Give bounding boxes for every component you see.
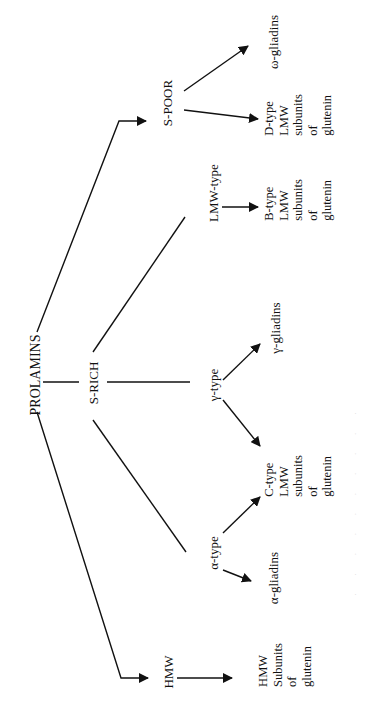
node-prolamins: PROLAMINS <box>29 335 42 416</box>
faint-caption: · · · · · · · · · · <box>352 404 360 595</box>
node-hmw-subunits-of-glutenin: HMW Subunits of glutenin <box>256 643 314 687</box>
node-hmw: HMW <box>162 655 175 688</box>
edge-prolamins-spoor <box>37 121 146 332</box>
block-line: of <box>285 643 300 687</box>
node-alpha-gliadins: α-gliadins <box>267 552 280 604</box>
block-line: glutenin <box>300 643 315 687</box>
block-line: C-type <box>262 455 277 497</box>
edge-spoor-dtype <box>184 110 258 119</box>
block-line: of <box>305 94 320 136</box>
node-alpha-type: α-type <box>207 536 220 570</box>
node-d-type-lmw-subunits: D-type LMW subunits of glutenin <box>262 94 335 136</box>
block-line: of <box>305 455 320 497</box>
block-line: subunits <box>291 94 306 136</box>
edge-gammatype-gammagliadins <box>223 344 260 380</box>
edge-alphatype-ctype <box>223 497 260 533</box>
prolamin-classification-diagram: PROLAMINS S-RICH S-POOR HMW LMW-type γ-t… <box>0 0 368 723</box>
node-gamma-type: γ-type <box>207 369 220 401</box>
edge-prolamins-hmw <box>37 412 148 678</box>
block-line: glutenin <box>320 179 335 221</box>
edge-alphatype-alphagliadins <box>223 570 251 581</box>
node-gamma-gliadins: γ-gliadins <box>269 302 282 353</box>
block-line: B-type <box>262 179 277 221</box>
block-line: LMW <box>276 455 291 497</box>
block-line: D-type <box>262 94 277 136</box>
node-b-type-lmw-subunits: B-type LMW subunits of glutenin <box>262 179 335 221</box>
block-line: HMW <box>256 643 271 687</box>
block-line: glutenin <box>320 94 335 136</box>
edge-srich-alphatype <box>93 420 186 552</box>
block-line: glutenin <box>320 455 335 497</box>
block-line: subunits <box>291 179 306 221</box>
edge-srich-lmwtype <box>93 217 185 352</box>
node-s-poor: S-POOR <box>161 80 174 126</box>
block-line: subunits <box>291 455 306 497</box>
node-omega-gliadins: ω-gliadins <box>267 15 280 69</box>
edge-gammatype-ctype <box>223 400 260 446</box>
node-c-type-lmw-subunits: C-type LMW subunits of glutenin <box>262 455 335 497</box>
block-line: Subunits <box>271 643 286 687</box>
block-line: of <box>305 179 320 221</box>
block-line: LMW <box>276 94 291 136</box>
node-s-rich: S-RICH <box>87 362 100 405</box>
edge-spoor-omega <box>184 46 248 91</box>
node-lmw-type: LMW-type <box>207 164 220 222</box>
block-line: LMW <box>276 179 291 221</box>
